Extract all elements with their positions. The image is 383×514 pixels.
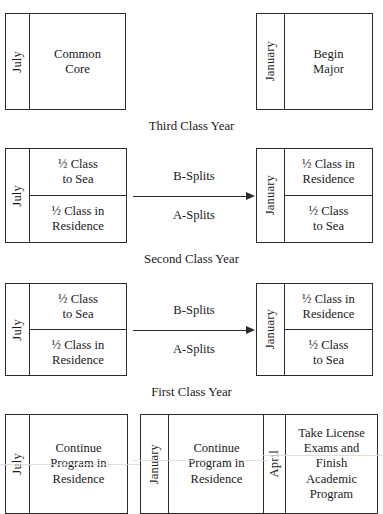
content-text: ContinueProgram inResidence [188, 441, 244, 486]
content-text: ½ Class inResidence [302, 157, 355, 187]
stage-box-july-first-class: July ½ Classto Sea ½ Class inResidence [5, 283, 127, 376]
content-text: ½ Class inResidence [52, 204, 105, 234]
month-label-january: January [264, 175, 277, 215]
content-text: CommonCore [54, 47, 101, 77]
content-cell-half-class-to-sea: ½ Classto Sea [30, 284, 126, 330]
content-cell-half-class-in-residence: ½ Class inResidence [285, 284, 372, 330]
caption-first-class-year: First Class Year [0, 386, 383, 399]
content-cell-half-class-in-residence: ½ Class inResidence [30, 330, 126, 375]
arrow-group-second-class-splits: B-Splits A-Splits [133, 170, 255, 222]
month-cell-april: April [264, 415, 286, 513]
scan-artifact [0, 464, 140, 465]
content-cell-common-core: CommonCore [30, 14, 125, 109]
content-text: ½ Classto Sea [58, 292, 98, 322]
content-column: ½ Class inResidence ½ Classto Sea [285, 284, 372, 375]
arrow-label-b-splits: B-Splits [133, 304, 255, 317]
month-cell-january: January [257, 14, 285, 109]
month-label-january: January [148, 444, 161, 484]
stage-box-july-second-class: July ½ Classto Sea ½ Class inResidence [5, 148, 127, 243]
content-cell-half-class-to-sea: ½ Classto Sea [30, 149, 126, 196]
stage-box-january-begin-major: January BeginMajor [256, 13, 373, 110]
content-text: ½ Classto Sea [309, 338, 349, 368]
month-label-july: July [11, 319, 24, 341]
content-column: ½ Classto Sea ½ Class inResidence [30, 284, 126, 375]
month-cell-july: July [6, 284, 30, 375]
content-cell-half-class-to-sea: ½ Classto Sea [285, 196, 372, 242]
content-text: ½ Class inResidence [52, 338, 105, 368]
arrow-line [133, 330, 246, 331]
stage-box-april-license-exams: April Take LicenseExams andFinishAcademi… [263, 414, 378, 514]
month-cell-january: January [257, 284, 285, 375]
content-text: Take LicenseExams andFinishAcademicProgr… [298, 426, 365, 502]
content-column: BeginMajor [285, 14, 372, 109]
content-column: ContinueProgram inResidence [169, 415, 264, 513]
content-cell-half-class-to-sea: ½ Classto Sea [285, 330, 372, 375]
stage-box-january-first-class: January ½ Class inResidence ½ Classto Se… [256, 283, 373, 376]
caption-second-class-year: Second Class Year [0, 253, 383, 266]
month-label-july: July [11, 51, 24, 73]
month-label-january: January [264, 41, 277, 81]
content-text: BeginMajor [313, 47, 344, 77]
content-text: ½ Classto Sea [309, 204, 349, 234]
content-text: ½ Class inResidence [302, 292, 355, 322]
arrow-label-a-splits: A-Splits [133, 343, 255, 356]
content-column: CommonCore [30, 14, 125, 109]
content-column: ½ Classto Sea ½ Class inResidence [30, 149, 126, 242]
content-cell-half-class-in-residence: ½ Class inResidence [30, 196, 126, 242]
content-cell-half-class-in-residence: ½ Class inResidence [285, 149, 372, 196]
content-cell-begin-major: BeginMajor [285, 14, 372, 109]
arrow-group-first-class-splits: B-Splits A-Splits [133, 304, 255, 356]
stage-box-july-common-core: July CommonCore [5, 13, 126, 110]
arrow-line [133, 196, 246, 197]
month-cell-july: July [6, 149, 30, 242]
caption-third-class-year: Third Class Year [0, 120, 383, 133]
content-column: Take LicenseExams andFinishAcademicProgr… [286, 415, 377, 513]
stage-box-january-continue-program: January ContinueProgram inResidence [140, 414, 265, 514]
month-cell-january: January [141, 415, 169, 513]
arrow-label-b-splits: B-Splits [133, 170, 255, 183]
content-column: ½ Class inResidence ½ Classto Sea [285, 149, 372, 242]
arrow-label-a-splits: A-Splits [133, 209, 255, 222]
scan-artifact [133, 460, 268, 461]
content-cell-license-exams: Take LicenseExams andFinishAcademicProgr… [286, 415, 377, 513]
arrow-head-icon [246, 326, 255, 334]
stage-box-january-second-class: January ½ Class inResidence ½ Classto Se… [256, 148, 373, 243]
month-label-january: January [264, 309, 277, 349]
month-label-july: July [11, 185, 24, 207]
content-cell-continue-program: ContinueProgram inResidence [169, 415, 264, 513]
month-cell-january: January [257, 149, 285, 242]
arrow-head-icon [246, 192, 255, 200]
scan-artifact [262, 455, 383, 456]
month-cell-july: July [6, 14, 30, 109]
content-text: ½ Classto Sea [58, 157, 98, 187]
